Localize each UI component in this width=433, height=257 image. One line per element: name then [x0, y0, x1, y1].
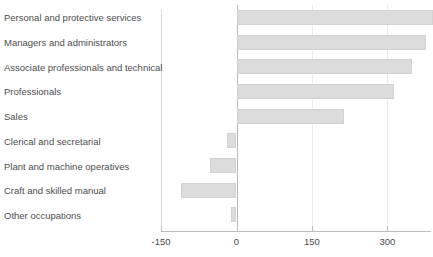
category-label: Clerical and secretarial: [4, 135, 101, 146]
tick-label-300: 300: [380, 236, 396, 247]
tick-mark--150: [161, 226, 162, 232]
bar: [237, 59, 412, 74]
bar: [237, 109, 344, 124]
bar: [237, 10, 433, 25]
category-label: Associate professionals and technical: [4, 61, 162, 72]
category-label: Other occupations: [4, 209, 81, 220]
tick-mark-150: [312, 226, 313, 232]
category-label: Managers and administrators: [4, 37, 127, 48]
bar: [210, 158, 237, 173]
category-label: Plant and machine operatives: [4, 160, 129, 171]
category-label: Professionals: [4, 86, 61, 97]
category-label: Sales: [4, 111, 28, 122]
value-axis-rule: [161, 231, 431, 232]
bar: [227, 133, 237, 148]
tick-label--150: -150: [151, 236, 170, 247]
bar: [181, 183, 236, 198]
category-label: Craft and skilled manual: [4, 185, 106, 196]
category-axis-rule: [161, 10, 162, 232]
bar: [231, 207, 237, 222]
tick-mark-0: [237, 226, 238, 232]
tick-label-150: 150: [304, 236, 320, 247]
bar: [237, 84, 395, 99]
bar: [237, 35, 427, 50]
tick-mark-300: [387, 226, 388, 232]
tick-label-0: 0: [234, 236, 239, 247]
category-label: Personal and protective services: [4, 12, 141, 23]
